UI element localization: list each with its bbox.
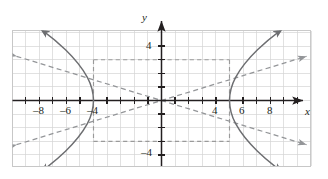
y-axis-label: y: [142, 12, 147, 23]
y-tick-label-neg4: –4: [141, 147, 152, 158]
hyperbola-figure: x y –8 –6 –4 4 6 8 4 –4: [0, 0, 328, 179]
y-tick-label-4: 4: [146, 40, 152, 51]
x-tick-label-4: 4: [212, 105, 218, 116]
x-tick-label-6: 6: [239, 105, 245, 116]
x-tick-label-neg4: –4: [87, 105, 98, 116]
x-tick-label-8: 8: [267, 105, 273, 116]
graph-canvas: [0, 0, 328, 179]
x-tick-label-neg8: –8: [33, 105, 44, 116]
x-tick-label-neg6: –6: [60, 105, 71, 116]
x-axis-label: x: [305, 106, 310, 117]
